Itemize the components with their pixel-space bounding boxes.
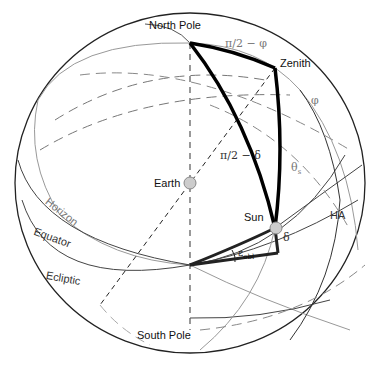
sun-marker bbox=[270, 222, 282, 234]
celestial-sphere-diagram bbox=[0, 0, 378, 366]
zenith-angle-symbol: θ bbox=[291, 161, 298, 174]
codeclination-label: π/2 − δ bbox=[220, 150, 261, 161]
south-pole-label: South Pole bbox=[137, 330, 191, 341]
dashed-back-arc-2 bbox=[40, 95, 290, 150]
zenith-label: Zenith bbox=[280, 58, 311, 69]
dashed-lower-arc bbox=[200, 265, 365, 330]
north-pole-label: North Pole bbox=[149, 20, 201, 31]
zenith-angle-arc bbox=[275, 68, 280, 228]
hour-angle-label: HA bbox=[330, 210, 345, 221]
sun-label: Sun bbox=[244, 212, 264, 223]
obliquity-subscript: obl bbox=[243, 253, 254, 261]
latitude-label: φ bbox=[311, 95, 319, 106]
codeclination-arc bbox=[190, 43, 275, 228]
obliquity-label: εobl bbox=[238, 248, 254, 261]
zenith-angle-subscript: s bbox=[298, 168, 302, 176]
dashed-back-arc-3 bbox=[80, 73, 350, 150]
declination-label: δ bbox=[283, 232, 290, 243]
hour-circle bbox=[275, 165, 362, 228]
colatitude-label: π/2 − φ bbox=[225, 38, 267, 49]
earth-label: Earth bbox=[154, 178, 180, 189]
zenith-angle-label: θs bbox=[291, 162, 301, 176]
earth-marker bbox=[184, 177, 196, 189]
